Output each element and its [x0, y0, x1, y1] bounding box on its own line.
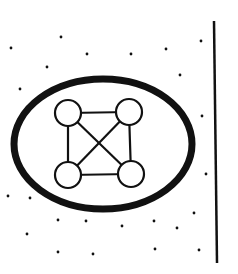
scatter-dot	[121, 225, 124, 228]
vertical-divider-line	[214, 21, 217, 263]
scatter-dot	[26, 233, 29, 236]
scattered-dots	[7, 36, 208, 256]
scatter-dot	[176, 227, 179, 230]
scatter-dot	[193, 212, 196, 215]
scatter-dot	[10, 47, 13, 50]
scatter-dot	[130, 53, 133, 56]
scatter-dot	[7, 195, 10, 198]
scatter-dot	[57, 219, 60, 222]
scatter-dot	[29, 197, 32, 200]
scatter-dot	[60, 36, 63, 39]
node-top-left	[55, 100, 81, 126]
scatter-dot	[92, 253, 95, 256]
node-bottom-right	[118, 161, 144, 187]
scatter-dot	[205, 173, 208, 176]
scatter-dot	[198, 249, 201, 252]
scatter-dot	[57, 251, 60, 254]
scatter-dot	[85, 220, 88, 223]
scatter-dot	[201, 115, 204, 118]
scatter-dot	[200, 40, 203, 43]
scatter-dot	[86, 53, 89, 56]
scatter-dot	[46, 66, 49, 69]
scatter-dot	[179, 74, 182, 77]
scatter-dot	[154, 248, 157, 251]
scatter-dot	[153, 220, 156, 223]
boundary-ellipse	[14, 79, 192, 209]
node-top-right	[116, 99, 142, 125]
node-bottom-left	[55, 162, 81, 188]
scatter-dot	[19, 88, 22, 91]
diagram-canvas	[0, 0, 238, 274]
scatter-dot	[165, 48, 168, 51]
